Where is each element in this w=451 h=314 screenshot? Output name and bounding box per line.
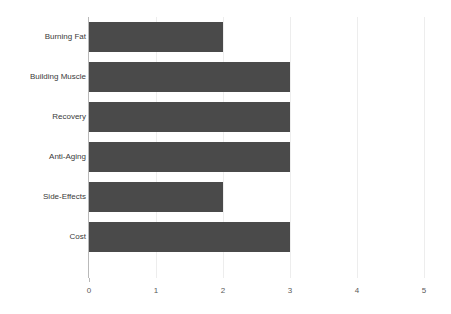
bar-side-effects [89, 182, 223, 212]
x-axis: 0 1 2 3 4 5 [89, 278, 424, 308]
x-tick-label-5: 5 [414, 286, 434, 296]
bar-cost [89, 222, 290, 252]
category-label-4: Side-Effects [2, 192, 86, 202]
category-label-2: Recovery [2, 112, 86, 122]
category-label-0: Burning Fat [2, 32, 86, 42]
bar-anti-aging [89, 142, 290, 172]
gridline-4 [357, 17, 358, 278]
horizontal-bar-chart: Burning Fat Building Muscle Recovery Ant… [0, 0, 451, 314]
category-axis-labels: Burning Fat Building Muscle Recovery Ant… [0, 17, 86, 278]
x-tick-label-1: 1 [146, 286, 166, 296]
x-tick-label-0: 0 [79, 286, 99, 296]
plot-area [89, 17, 424, 278]
bar-burning-fat [89, 22, 223, 52]
y-axis-line [88, 17, 89, 278]
category-label-3: Anti-Aging [2, 152, 86, 162]
x-tick-label-2: 2 [213, 286, 233, 296]
bar-recovery [89, 102, 290, 132]
gridline-5 [424, 17, 425, 278]
category-label-1: Building Muscle [2, 72, 86, 82]
gridline-3 [290, 17, 291, 278]
category-label-5: Cost [2, 232, 86, 242]
x-tick-label-3: 3 [280, 286, 300, 296]
x-tick-mark-0 [89, 278, 90, 282]
x-tick-label-4: 4 [347, 286, 367, 296]
bar-building-muscle [89, 62, 290, 92]
